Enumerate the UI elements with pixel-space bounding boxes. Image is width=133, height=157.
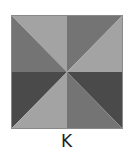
pinwheel-pattern-graphic — [11, 15, 123, 129]
pinwheel-square-figure — [11, 15, 123, 129]
figure-label: K — [0, 131, 133, 151]
